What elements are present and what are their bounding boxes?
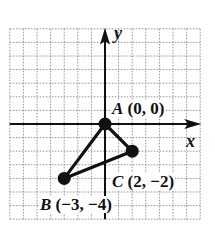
point-b-label: B (−3, −4) xyxy=(39,196,113,213)
point-a-dot xyxy=(99,118,112,131)
point-a-coords: (0, 0) xyxy=(128,99,165,118)
point-b-name: B xyxy=(40,195,51,214)
coordinate-plane-diagram: y x A (0, 0) C (2, −2) B (−3, −4) xyxy=(0,0,215,233)
point-c-name: C xyxy=(112,172,123,191)
point-c-coords: (2, −2) xyxy=(128,172,175,191)
point-c-dot xyxy=(126,145,139,158)
y-axis-label: y xyxy=(114,24,122,42)
x-axis-label: x xyxy=(186,132,195,150)
point-b-dot xyxy=(58,172,71,185)
point-a-name: A xyxy=(112,99,123,118)
point-a-label: A (0, 0) xyxy=(111,100,165,117)
point-c-label: C (2, −2) xyxy=(111,173,175,190)
point-b-coords: (−3, −4) xyxy=(56,195,112,214)
